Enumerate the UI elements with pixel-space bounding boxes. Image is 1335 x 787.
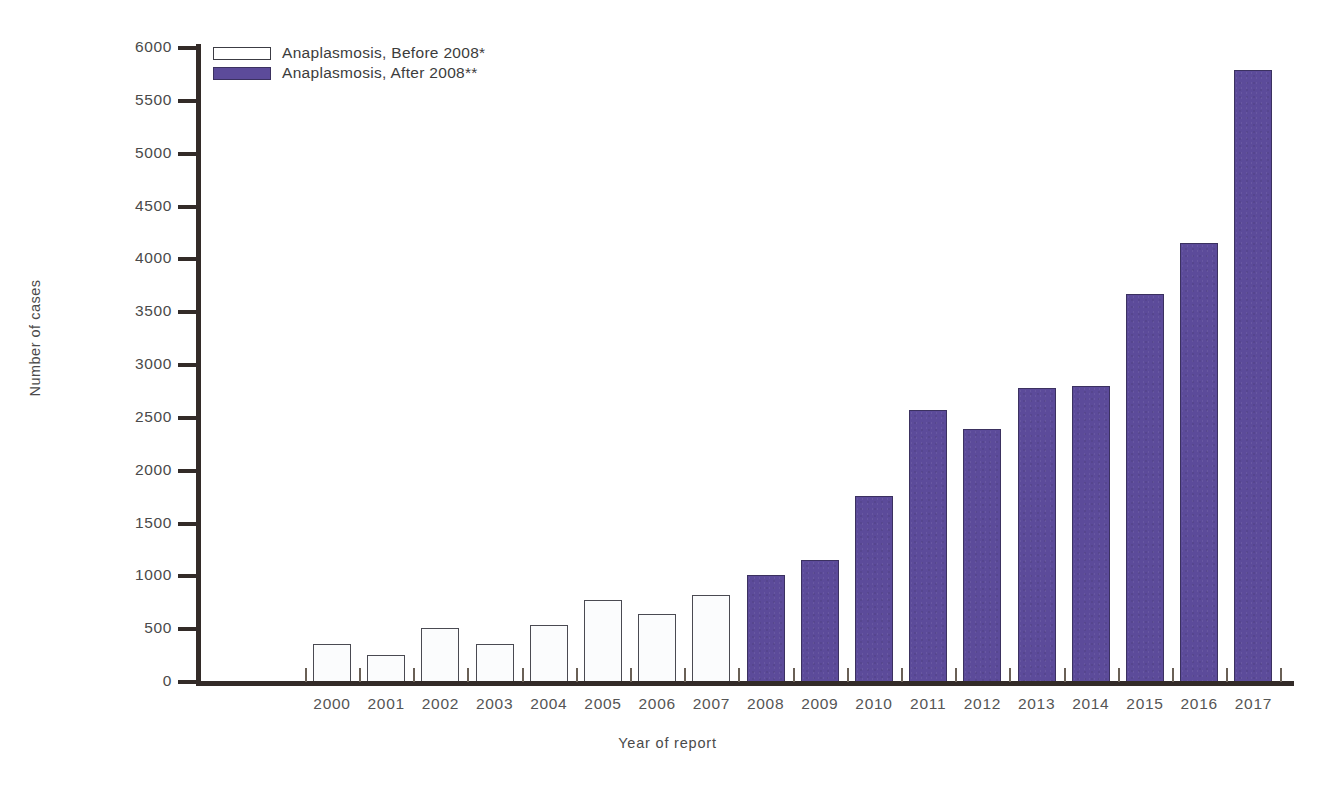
y-axis-line <box>196 44 201 685</box>
y-axis-tick-label: 3500 <box>82 302 172 320</box>
bar-2014 <box>1072 386 1110 682</box>
x-axis-tick-label-2015: 2015 <box>1118 695 1172 713</box>
x-axis-tick <box>413 668 415 682</box>
bar-2013 <box>1018 388 1056 682</box>
bar-2016 <box>1180 243 1218 682</box>
x-axis-tick <box>467 668 469 682</box>
bar-2008 <box>747 575 785 682</box>
x-axis-tick <box>630 668 632 682</box>
bar-2003 <box>476 644 514 682</box>
bar-2004 <box>530 625 568 682</box>
x-axis-tick-label-2005: 2005 <box>576 695 630 713</box>
y-axis-tick-label: 0 <box>82 672 172 690</box>
x-axis-tick-label-2011: 2011 <box>901 695 955 713</box>
x-axis-title: Year of report <box>0 735 1335 751</box>
x-axis-tick <box>1172 668 1174 682</box>
x-axis-tick-label-2004: 2004 <box>522 695 576 713</box>
x-axis-tick-label-2000: 2000 <box>305 695 359 713</box>
x-axis-tick-label-2017: 2017 <box>1226 695 1280 713</box>
y-axis-tick <box>178 469 196 473</box>
y-axis-tick <box>178 99 196 103</box>
x-axis-tick-label-2002: 2002 <box>413 695 467 713</box>
y-axis-tick <box>178 152 196 156</box>
bar-2000 <box>313 644 351 682</box>
legend-label-1: Anaplasmosis, After 2008** <box>282 64 478 82</box>
y-axis-tick <box>178 574 196 578</box>
x-axis-tick <box>684 668 686 682</box>
x-axis-tick-label-2003: 2003 <box>468 695 522 713</box>
y-axis-tick-label: 4000 <box>82 249 172 267</box>
x-axis-tick-label-2013: 2013 <box>1010 695 1064 713</box>
x-axis-tick <box>522 668 524 682</box>
x-axis-tick <box>1064 668 1066 682</box>
legend-item-1: Anaplasmosis, After 2008** <box>213 63 485 83</box>
y-axis-tick-label: 2000 <box>82 461 172 479</box>
y-axis-title: Number of cases <box>27 258 43 418</box>
x-axis-tick-label-2007: 2007 <box>684 695 738 713</box>
bar-2012 <box>963 429 1001 682</box>
y-axis-tick <box>178 257 196 261</box>
x-axis-tick <box>359 668 361 682</box>
y-axis-tick-label: 5000 <box>82 144 172 162</box>
x-axis-tick <box>847 668 849 682</box>
bar-2009 <box>801 560 839 682</box>
bar-2002 <box>421 628 459 682</box>
y-axis-tick-label: 1000 <box>82 566 172 584</box>
chart-legend: Anaplasmosis, Before 2008*Anaplasmosis, … <box>213 43 485 83</box>
y-axis-tick <box>178 205 196 209</box>
x-axis-tick <box>305 668 307 682</box>
x-axis-tick-label-2010: 2010 <box>847 695 901 713</box>
bar-2006 <box>638 614 676 682</box>
legend-swatch-before <box>213 47 271 60</box>
y-axis-tick <box>178 46 196 50</box>
y-axis-tick <box>178 522 196 526</box>
x-axis-tick <box>793 668 795 682</box>
y-axis-tick-label: 3000 <box>82 355 172 373</box>
bar-2015 <box>1126 294 1164 682</box>
legend-label-0: Anaplasmosis, Before 2008* <box>282 44 485 62</box>
x-axis-tick-label-2014: 2014 <box>1064 695 1118 713</box>
y-axis-tick-label: 500 <box>82 619 172 637</box>
y-axis-tick <box>178 680 196 684</box>
bar-2017 <box>1234 70 1272 682</box>
x-axis-tick <box>738 668 740 682</box>
bar-2010 <box>855 496 893 682</box>
x-axis-tick <box>1118 668 1120 682</box>
x-axis-tick <box>901 668 903 682</box>
x-axis-tick-label-2008: 2008 <box>739 695 793 713</box>
x-axis-tick-label-2006: 2006 <box>630 695 684 713</box>
legend-swatch-after <box>213 67 271 80</box>
x-axis-tick-label-2001: 2001 <box>359 695 413 713</box>
x-axis-tick <box>1009 668 1011 682</box>
y-axis-tick-label: 6000 <box>82 38 172 56</box>
x-axis-tick-label-2012: 2012 <box>955 695 1009 713</box>
x-axis-tick <box>1226 668 1228 682</box>
y-axis-tick-label: 2500 <box>82 408 172 426</box>
y-axis-tick <box>178 363 196 367</box>
x-axis-tick-label-2016: 2016 <box>1172 695 1226 713</box>
bar-2005 <box>584 600 622 682</box>
bar-chart: 6000550050004500400035003000250020001500… <box>0 0 1335 787</box>
y-axis-tick-label: 4500 <box>82 197 172 215</box>
x-axis-tick-label-2009: 2009 <box>793 695 847 713</box>
bar-2001 <box>367 655 405 682</box>
x-axis-tick <box>1280 668 1282 682</box>
y-axis-tick <box>178 310 196 314</box>
y-axis-tick-label: 1500 <box>82 514 172 532</box>
y-axis-tick <box>178 627 196 631</box>
legend-item-0: Anaplasmosis, Before 2008* <box>213 43 485 63</box>
bar-2011 <box>909 410 947 682</box>
x-axis-tick <box>955 668 957 682</box>
bar-2007 <box>692 595 730 682</box>
y-axis-tick-label: 5500 <box>82 91 172 109</box>
y-axis-tick <box>178 416 196 420</box>
x-axis-tick <box>576 668 578 682</box>
